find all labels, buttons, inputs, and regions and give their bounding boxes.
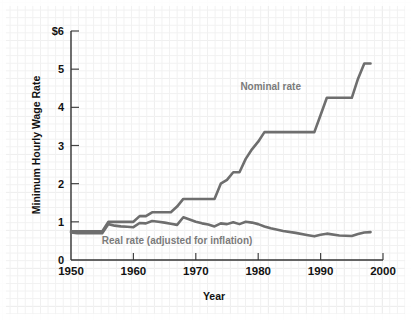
x-axis-title: Year bbox=[203, 290, 225, 302]
x-axis-tick-group: 195019601970198019902000 bbox=[58, 253, 396, 277]
series-line bbox=[71, 217, 371, 236]
x-axis-tick-label: 2000 bbox=[370, 265, 396, 277]
series-label: Real rate (adjusted for inflation) bbox=[102, 235, 253, 246]
x-axis-tick-label: 1990 bbox=[308, 265, 334, 277]
y-axis-title: Minimum Hourly Wage Rate bbox=[30, 76, 42, 215]
series-label: Nominal rate bbox=[240, 81, 301, 92]
x-axis-tick-label: 1980 bbox=[245, 265, 271, 277]
y-axis-tick-label: 5 bbox=[58, 63, 64, 75]
series-line bbox=[71, 63, 371, 231]
y-axis-tick-label: 2 bbox=[58, 178, 64, 190]
data-series-group bbox=[71, 63, 371, 236]
chart-screenshot: Minimum Hourly Wage Rate Year 012345$6 1… bbox=[0, 0, 411, 320]
y-axis-tick-label: $6 bbox=[52, 25, 64, 37]
x-axis-tick-label: 1950 bbox=[58, 265, 84, 277]
x-axis-tick-label: 1970 bbox=[183, 265, 209, 277]
y-axis-tick-group: 012345$6 bbox=[52, 25, 79, 266]
y-axis-tick-label: 3 bbox=[58, 140, 64, 152]
minimum-wage-line-chart: Minimum Hourly Wage Rate Year 012345$6 1… bbox=[0, 0, 411, 320]
y-axis-tick-label: 4 bbox=[58, 101, 65, 113]
x-axis-tick-label: 1960 bbox=[121, 265, 147, 277]
y-axis-tick-label: 1 bbox=[58, 216, 64, 228]
